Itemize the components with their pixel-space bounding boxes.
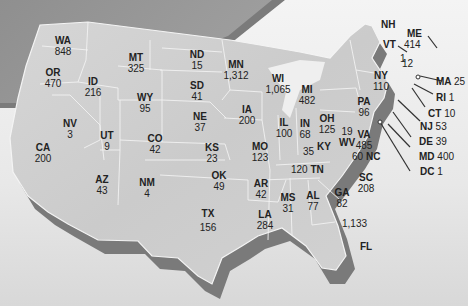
state-label-vt: VT xyxy=(383,39,396,50)
state-label-md: MD 400 xyxy=(419,151,454,162)
state-label-nh-value: 12 xyxy=(402,58,413,69)
state-label-ri: RI 1 xyxy=(436,92,454,103)
state-label-me: ME414 xyxy=(404,28,422,50)
state-label-ct: CT 10 xyxy=(428,108,455,119)
state-label-nh: NH xyxy=(381,19,395,30)
state-label-de: DE 39 xyxy=(419,136,447,147)
callout-lines xyxy=(0,0,468,306)
state-label-dc: DC 1 xyxy=(420,166,443,177)
state-label-ma: MA 25 xyxy=(436,76,465,87)
state-label-nj: NJ 53 xyxy=(420,121,447,132)
